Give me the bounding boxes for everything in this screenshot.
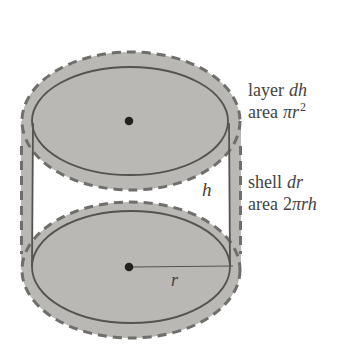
top-center-dot	[125, 117, 134, 126]
shell-area-word: area	[248, 194, 278, 214]
shell-area-formula: πrh	[292, 194, 317, 214]
layer-area-exponent: 2	[300, 100, 306, 114]
shell-annotation: shelldr area2πrh	[248, 171, 317, 215]
layer-label-line: layerdh	[248, 79, 307, 101]
cylinder-left-edge	[32, 123, 33, 266]
radius-symbol-label: r	[171, 271, 178, 289]
shell-differential: dr	[287, 172, 303, 192]
shell-area-line: area2πrh	[248, 193, 317, 215]
shell-word: shell	[248, 172, 282, 192]
shell-label-line: shelldr	[248, 171, 317, 193]
layer-differential: dh	[289, 80, 307, 100]
layer-annotation: layerdh areaπr2	[248, 79, 307, 125]
cylinder-shell-figure: h r layerdh areaπr2 shelldr area2πrh	[0, 0, 339, 354]
height-symbol-label: h	[202, 180, 212, 199]
bottom-center-dot	[125, 263, 134, 272]
cylinder-right-edge	[229, 123, 230, 266]
shell-area-coefficient: 2	[283, 194, 292, 214]
layer-area-formula: πr	[283, 102, 299, 122]
layer-area-line: areaπr2	[248, 101, 307, 125]
layer-area-word: area	[248, 102, 278, 122]
layer-word: layer	[248, 80, 284, 100]
